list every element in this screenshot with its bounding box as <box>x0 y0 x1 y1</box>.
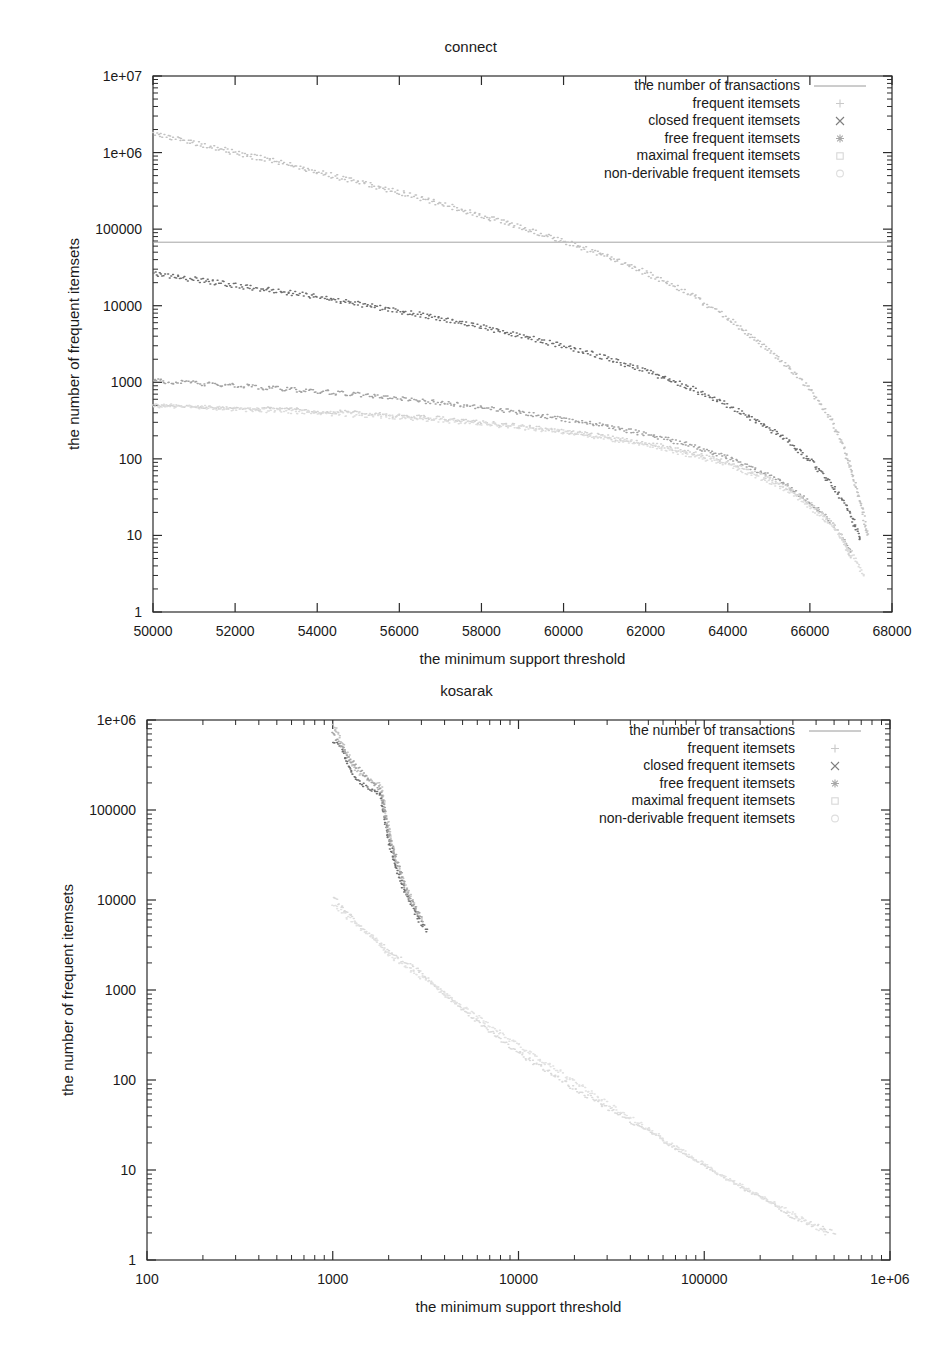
y-tick-label: 1e+06 <box>103 145 143 161</box>
legend: the number of transactionsfrequent items… <box>604 77 866 181</box>
legend-label: closed frequent itemsets <box>643 757 795 773</box>
y-tick-label: 1e+06 <box>97 712 137 728</box>
y-axis-label: the number of frequent itemsets <box>59 884 76 1096</box>
y-tick-label: 10 <box>120 1162 136 1178</box>
series-points <box>154 379 852 552</box>
legend-marker-circle <box>832 815 839 822</box>
legend-label: closed frequent itemsets <box>648 112 800 128</box>
x-tick-label: 54000 <box>298 623 337 639</box>
x-tick-label: 1000 <box>317 1271 348 1287</box>
y-axis-label: the number of frequent itemsets <box>65 238 82 450</box>
x-tick-label: 56000 <box>380 623 419 639</box>
y-tick-label: 100 <box>113 1072 137 1088</box>
legend-marker-star <box>836 135 844 143</box>
series-points <box>333 898 835 1235</box>
x-tick-label: 66000 <box>790 623 829 639</box>
legend-label: maximal frequent itemsets <box>637 147 800 163</box>
x-tick-label: 62000 <box>626 623 665 639</box>
series-points <box>152 405 851 558</box>
y-tick-label: 100000 <box>89 802 136 818</box>
legend-label: the number of transactions <box>634 77 800 93</box>
y-tick-label: 1e+07 <box>103 68 143 84</box>
connect-plot: connect1101001000100001000001e+061e+07th… <box>0 0 950 668</box>
series-maximal-frequent-itemsets <box>152 405 851 558</box>
series-non-derivable-frequent-itemsets <box>153 404 864 576</box>
legend-marker-circle <box>837 170 844 177</box>
x-tick-label: 10000 <box>499 1271 538 1287</box>
chart-connect: connect1101001000100001000001e+061e+07th… <box>0 0 950 668</box>
legend-label: maximal frequent itemsets <box>632 792 795 808</box>
x-tick-label: 60000 <box>544 623 583 639</box>
legend-label: frequent itemsets <box>693 95 800 111</box>
y-tick-label: 1 <box>128 1252 136 1268</box>
series-points <box>153 404 864 576</box>
series-non-derivable-frequent-itemsets <box>332 905 826 1235</box>
series-points <box>153 272 860 540</box>
series-free-frequent-itemsets <box>154 379 852 552</box>
y-tick-label: 10000 <box>103 298 142 314</box>
legend: the number of transactionsfrequent items… <box>599 722 861 826</box>
x-tick-label: 50000 <box>134 623 173 639</box>
x-tick-label: 1e+06 <box>870 1271 910 1287</box>
x-axis-label: the minimum support threshold <box>420 650 626 667</box>
x-tick-label: 100000 <box>681 1271 728 1287</box>
legend-label: non-derivable frequent itemsets <box>604 165 800 181</box>
chart-title: kosarak <box>440 682 493 699</box>
y-tick-label: 100 <box>119 451 143 467</box>
x-tick-label: 100 <box>135 1271 159 1287</box>
chart-kosarak: kosarak1101001000100001000001e+06the num… <box>0 668 950 1328</box>
y-tick-label: 10 <box>126 527 142 543</box>
series-group <box>152 133 892 576</box>
y-tick-label: 1 <box>134 604 142 620</box>
legend-marker-square <box>832 798 838 804</box>
series-points <box>332 725 423 922</box>
chart-title: connect <box>444 38 497 55</box>
legend-marker-cross <box>831 762 839 770</box>
series-closed-frequent-itemsets <box>153 272 860 540</box>
series-points <box>332 905 826 1235</box>
x-tick-label: 68000 <box>873 623 912 639</box>
kosarak-plot: kosarak1101001000100001000001e+06the num… <box>0 668 950 1328</box>
y-tick-label: 1000 <box>111 374 142 390</box>
x-axis-label: the minimum support threshold <box>416 1298 622 1315</box>
x-tick-label: 64000 <box>708 623 747 639</box>
legend-label: frequent itemsets <box>688 740 795 756</box>
y-tick-label: 10000 <box>97 892 136 908</box>
x-tick-label: 58000 <box>462 623 501 639</box>
legend-label: non-derivable frequent itemsets <box>599 810 795 826</box>
y-tick-label: 1000 <box>105 982 136 998</box>
legend-label: the number of transactions <box>629 722 795 738</box>
x-tick-label: 52000 <box>216 623 255 639</box>
legend-marker-star <box>831 780 839 788</box>
series-maximal-frequent-itemsets <box>333 898 835 1235</box>
legend-label: free frequent itemsets <box>665 130 800 146</box>
legend-marker-cross <box>836 117 844 125</box>
legend-marker-square <box>837 153 843 159</box>
series-frequent-itemsets <box>332 725 423 922</box>
legend-marker-plus <box>836 100 844 108</box>
y-tick-label: 100000 <box>95 221 142 237</box>
legend-label: free frequent itemsets <box>660 775 795 791</box>
legend-marker-plus <box>831 745 839 753</box>
